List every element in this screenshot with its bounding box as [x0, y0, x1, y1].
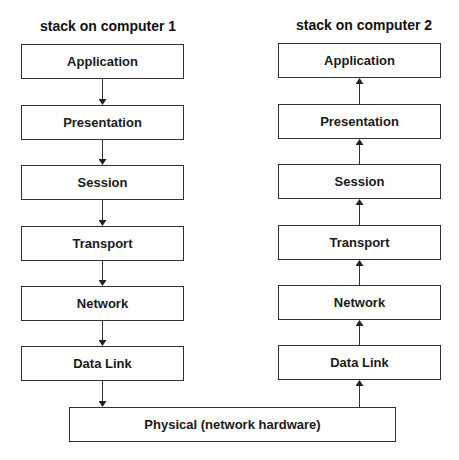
flow-arrows [0, 0, 459, 460]
